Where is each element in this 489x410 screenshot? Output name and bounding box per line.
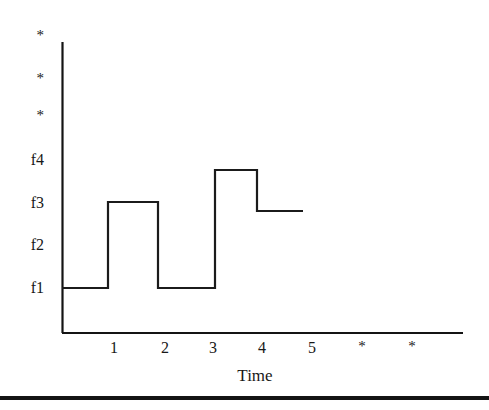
x-axis-title: Time xyxy=(237,366,272,386)
y-tick-star-1: * xyxy=(22,28,44,43)
x-tick-3: 3 xyxy=(209,340,217,356)
step-function-figure: * * * f4 f3 f2 f1 1 2 3 4 5 * * Time xyxy=(0,0,489,410)
bottom-separator-rule xyxy=(0,396,489,400)
y-tick-star-3: * xyxy=(22,108,44,123)
x-tick-5: 5 xyxy=(308,340,316,356)
x-tick-star-2: * xyxy=(408,339,416,354)
step-function-series xyxy=(62,170,303,288)
y-tick-f1: f1 xyxy=(14,280,44,296)
x-tick-4: 4 xyxy=(258,340,266,356)
x-tick-1: 1 xyxy=(110,340,118,356)
y-tick-f2: f2 xyxy=(14,237,44,253)
x-tick-2: 2 xyxy=(161,340,169,356)
x-tick-star-1: * xyxy=(358,339,366,354)
y-tick-star-2: * xyxy=(22,71,44,86)
y-tick-f4: f4 xyxy=(14,152,44,168)
y-tick-f3: f3 xyxy=(14,195,44,211)
